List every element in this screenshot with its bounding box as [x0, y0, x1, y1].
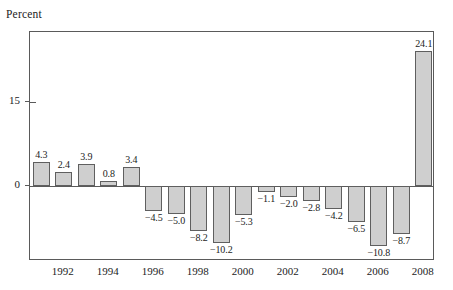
- bar: [280, 186, 297, 197]
- bar: [258, 186, 275, 192]
- y-axis-tick-outer: [25, 101, 29, 102]
- bar: [145, 186, 162, 211]
- bar-value-label: 3.9: [69, 151, 103, 162]
- y-axis-tick-label: 0: [0, 178, 20, 190]
- y-axis-title: Percent: [6, 8, 42, 20]
- bar-value-label: −5.3: [227, 216, 261, 227]
- bar: [55, 172, 72, 185]
- bar-value-label: −6.5: [339, 223, 373, 234]
- bar: [100, 181, 117, 185]
- bar-value-label: 3.4: [114, 154, 148, 165]
- bar: [303, 186, 320, 202]
- bar: [348, 186, 365, 222]
- bar: [190, 186, 207, 232]
- bar: [415, 51, 432, 186]
- bar-chart: Percent 4.32.43.90.83.4−4.5−5.0−8.2−10.2…: [0, 0, 453, 290]
- bar-value-label: 24.1: [407, 38, 441, 49]
- plot-frame: 4.32.43.90.83.4−4.5−5.0−8.2−10.2−5.3−1.1…: [29, 31, 434, 260]
- bar-value-label: 4.3: [24, 149, 58, 160]
- bar: [213, 186, 230, 243]
- bar-value-label: −10.8: [362, 247, 396, 258]
- bar-value-label: −8.7: [384, 235, 418, 246]
- bar-value-label: 0.8: [92, 168, 126, 179]
- bar-value-label: −4.2: [317, 210, 351, 221]
- bar: [325, 186, 342, 209]
- plot-area: 4.32.43.90.83.4−4.5−5.0−8.2−10.2−5.3−1.1…: [30, 32, 433, 259]
- y-axis-tick-outer: [25, 185, 29, 186]
- bar: [393, 186, 410, 235]
- bar-value-label: −5.0: [159, 215, 193, 226]
- y-axis-tick: [30, 186, 36, 187]
- y-axis-tick: [30, 102, 36, 103]
- y-axis-tick-label: 15: [0, 94, 20, 106]
- bar: [123, 167, 140, 186]
- bar-value-label: −8.2: [182, 232, 216, 243]
- bar: [168, 186, 185, 214]
- x-axis-tick-label: 2008: [396, 265, 450, 277]
- bar-value-label: −10.2: [204, 244, 238, 255]
